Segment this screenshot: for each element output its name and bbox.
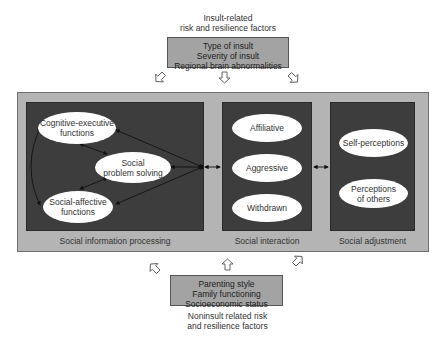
- node-text: problem solving: [103, 168, 163, 178]
- node-text: Social: [121, 158, 144, 168]
- node-text: Withdrawn: [247, 203, 287, 213]
- factor-socioeconomic-status: Socioeconomic status: [171, 299, 282, 309]
- node-perceptions-of-others: Perceptions of others: [339, 179, 408, 208]
- node-social-problem-solving: Social problem solving: [95, 152, 171, 183]
- node-text: of others: [357, 194, 390, 204]
- noninsult-factors-box: Parenting style Family functioning Socio…: [170, 275, 283, 306]
- bottom-factors-caption: Noninsult related risk and resilience fa…: [150, 311, 305, 331]
- node-social-affective-functions: Social-affective functions: [43, 191, 113, 223]
- bottom-caption-line-1: Noninsult related risk: [150, 311, 305, 321]
- node-cognitive-executive-functions: Cognitive-executive functions: [38, 112, 116, 144]
- bottom-caption-line-2: and resilience factors: [150, 321, 305, 331]
- node-self-perceptions: Self-perceptions: [339, 129, 408, 157]
- node-text: functions: [61, 207, 95, 217]
- node-text: Self-perceptions: [343, 138, 404, 148]
- node-aggressive: Aggressive: [232, 154, 302, 182]
- factor-family-functioning: Family functioning: [171, 289, 282, 299]
- node-affiliative: Affiliative: [232, 114, 302, 142]
- node-text: functions: [60, 128, 94, 138]
- node-text: Cognitive-executive: [40, 118, 114, 128]
- node-withdrawn: Withdrawn: [232, 194, 302, 222]
- node-text: Social-affective: [49, 197, 106, 207]
- node-text: Aggressive: [246, 163, 288, 173]
- node-text: Perceptions: [351, 184, 396, 194]
- factor-parenting-style: Parenting style: [171, 279, 282, 289]
- node-text: Affiliative: [250, 123, 284, 133]
